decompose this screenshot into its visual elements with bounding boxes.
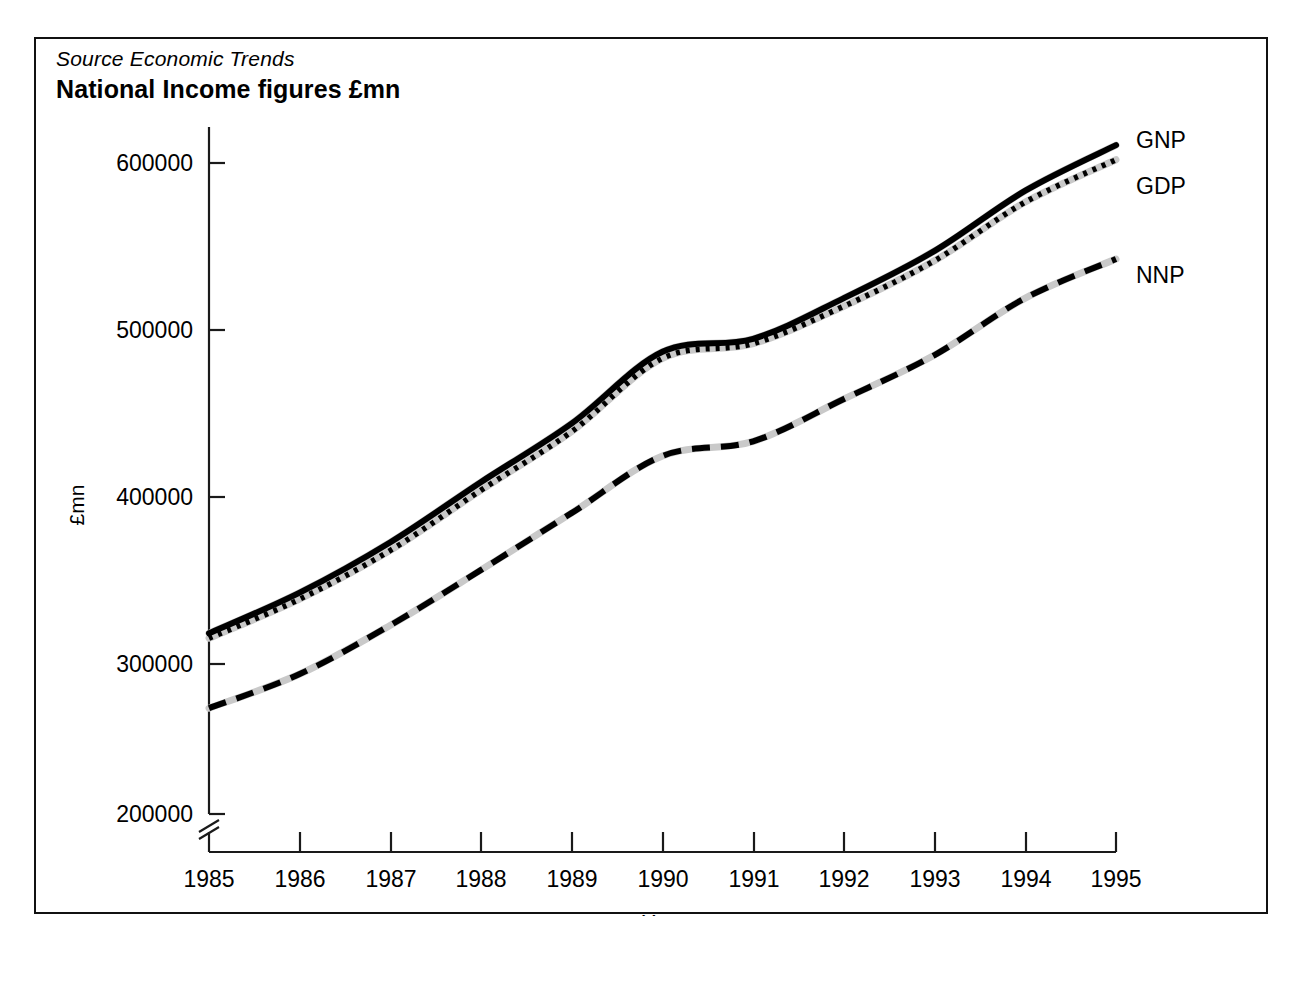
x-tick-label-1992: 1992 xyxy=(818,866,869,892)
x-tick-label-1995: 1995 xyxy=(1090,866,1141,892)
x-tick-label-1985: 1985 xyxy=(183,866,234,892)
chart-frame: Source Economic Trends National Income f… xyxy=(34,37,1268,914)
series-label-gnp: GNP xyxy=(1136,127,1186,153)
y-tick-label-400000: 400000 xyxy=(116,484,193,510)
x-tick-label-1990: 1990 xyxy=(637,866,688,892)
x-tick-group: 1985 1986 1987 1988 1989 1990 1991 1992 … xyxy=(183,832,1141,892)
x-axis-title: Year xyxy=(642,910,684,916)
x-tick-label-1994: 1994 xyxy=(1000,866,1051,892)
line-chart-plot: 600000 500000 400000 300000 200000 £mn 1… xyxy=(36,39,1270,916)
y-axis-title: £mn xyxy=(65,485,88,526)
series-label-group: GNP GDP NNP xyxy=(1136,127,1186,288)
x-tick-label-1991: 1991 xyxy=(728,866,779,892)
y-tick-label-200000: 200000 xyxy=(116,801,193,827)
x-tick-label-1986: 1986 xyxy=(274,866,325,892)
series-label-nnp: NNP xyxy=(1136,262,1185,288)
shadow-nnp xyxy=(209,259,1116,708)
x-tick-label-1989: 1989 xyxy=(546,866,597,892)
y-tick-label-500000: 500000 xyxy=(116,317,193,343)
x-tick-label-1988: 1988 xyxy=(455,866,506,892)
series-lines xyxy=(209,145,1116,708)
series-line-gnp[interactable] xyxy=(209,145,1116,633)
x-tick-label-1993: 1993 xyxy=(909,866,960,892)
x-tick-label-1987: 1987 xyxy=(365,866,416,892)
y-tick-label-300000: 300000 xyxy=(116,651,193,677)
y-tick-label-600000: 600000 xyxy=(116,150,193,176)
series-label-gdp: GDP xyxy=(1136,173,1186,199)
